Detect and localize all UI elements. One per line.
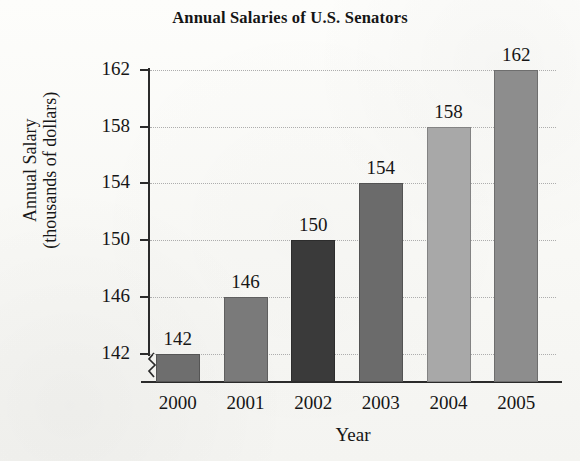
bar-2005 bbox=[494, 70, 538, 382]
y-axis-tick bbox=[140, 182, 149, 184]
y-axis-tick-label: 142 bbox=[84, 342, 130, 364]
y-axis-tick bbox=[140, 126, 149, 128]
y-axis-tick-label: 146 bbox=[84, 285, 130, 307]
bar-chart-figure: Annual Salaries of U.S. Senators Annual … bbox=[0, 0, 580, 461]
y-axis-title-line-2: (thousands of dollars) bbox=[40, 32, 60, 308]
y-axis-tick-label: 154 bbox=[84, 171, 130, 193]
bar-value-label-2002: 150 bbox=[278, 214, 348, 236]
y-axis-tick bbox=[140, 296, 149, 298]
bar-value-label-2001: 146 bbox=[211, 271, 281, 293]
x-axis-title: Year bbox=[150, 424, 556, 446]
bar-2001 bbox=[224, 297, 268, 382]
y-axis-tick-labels: 142146150154158162 bbox=[84, 0, 130, 461]
y-axis-title-line-1: Annual Salary bbox=[20, 32, 40, 308]
bar-2000 bbox=[156, 354, 200, 382]
y-axis-tick bbox=[140, 353, 149, 355]
bar-2004 bbox=[427, 127, 471, 382]
bar-2002 bbox=[291, 240, 335, 382]
x-axis-tick-label-2005: 2005 bbox=[476, 392, 556, 414]
bar-value-label-2004: 158 bbox=[414, 101, 484, 123]
y-axis-tick-label: 150 bbox=[84, 228, 130, 250]
y-axis-tick bbox=[140, 239, 149, 241]
y-axis-title: Annual Salary (thousands of dollars) bbox=[20, 32, 60, 308]
bar-2003 bbox=[359, 183, 403, 382]
y-axis-tick bbox=[140, 69, 149, 71]
y-axis-tick-label: 162 bbox=[84, 58, 130, 80]
bar-value-label-2005: 162 bbox=[481, 44, 551, 66]
y-axis-tick-label: 158 bbox=[84, 115, 130, 137]
bar-value-label-2003: 154 bbox=[346, 157, 416, 179]
bar-value-label-2000: 142 bbox=[143, 328, 213, 350]
